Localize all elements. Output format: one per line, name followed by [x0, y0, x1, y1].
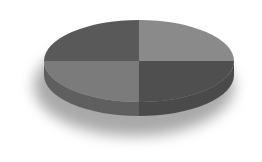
slice-top-right: [139, 20, 234, 61]
pie-chart-3d: [0, 0, 262, 162]
pie-top-face: [44, 20, 234, 102]
slice-top-left: [44, 20, 139, 61]
